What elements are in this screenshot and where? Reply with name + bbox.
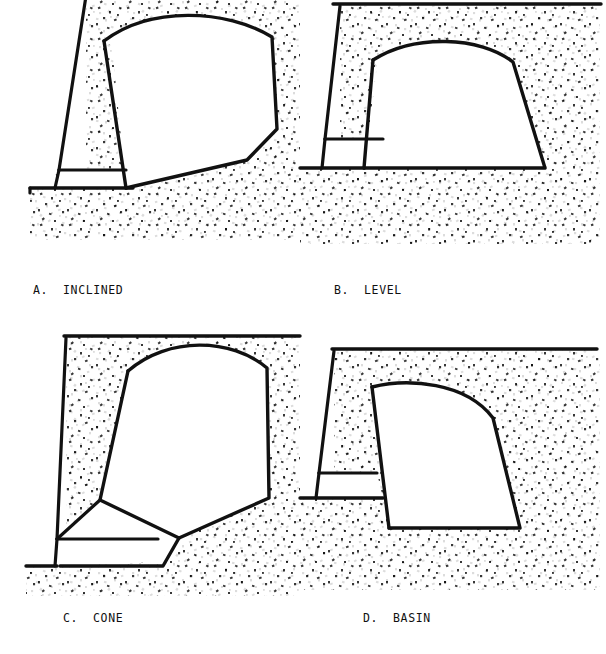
panel-c-wall-face — [57, 338, 66, 539]
panel-c-wall-base — [55, 539, 57, 566]
panel-a-drift-band — [55, 170, 133, 188]
panel-a-inclined — [30, 0, 300, 240]
panel-c-drift-band — [55, 539, 163, 566]
chamber-floor-configurations-figure — [0, 0, 606, 654]
panel-b-level — [300, 4, 601, 244]
panel-d-wall-face — [319, 351, 334, 473]
panel-b-wall-face — [325, 6, 340, 139]
panel-c-caption: C. CONE — [63, 611, 123, 625]
panel-d-drift-band — [316, 473, 383, 498]
panel-a-caption: A. INCLINED — [33, 283, 123, 297]
panel-c-cone — [26, 336, 300, 596]
panel-d-caption: D. BASIN — [363, 611, 431, 625]
panel-a-wall-face — [59, 0, 86, 170]
panel-d-basin — [300, 349, 600, 590]
panel-b-caption: B. LEVEL — [334, 283, 402, 297]
